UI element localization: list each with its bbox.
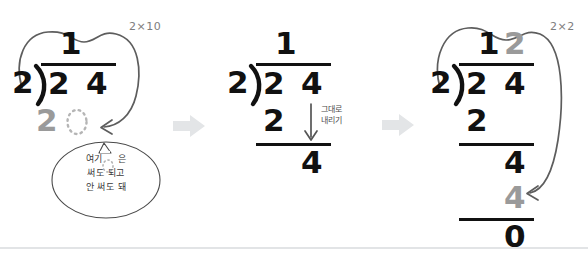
bubble-line-1-pre: 여기	[86, 154, 102, 164]
bubble-line-1: 여기 은	[52, 153, 160, 167]
bubble-line-1-post: 은	[118, 154, 126, 164]
step-2-dividend-tens: 2	[263, 68, 285, 99]
step-1-hint-bubble-text: 여기 은 써도 되고 안 써도 돼	[52, 153, 160, 195]
step-3-dividend-ones: 4	[504, 68, 526, 99]
right-arrow-icon	[381, 112, 415, 138]
step-2-partial-product: 2	[263, 105, 285, 136]
step-3-partial-product: 2	[466, 105, 488, 136]
step-1-mult-label: 2×10	[129, 20, 161, 33]
step-2-note-line-2: 내리기	[321, 116, 342, 127]
step-3-quotient-tens: 1	[478, 28, 500, 59]
step-2-bring-down-arrow	[215, 0, 385, 255]
step-1-divisor: 2	[12, 67, 34, 98]
step-3-division-bracket	[418, 0, 588, 255]
step-1-dividend-ones: 4	[86, 68, 108, 99]
step-3-mult-label: 2×2	[550, 20, 575, 33]
step-2-divisor: 2	[227, 67, 249, 98]
step-2-dividend-ones: 4	[301, 68, 323, 99]
bottom-divider	[0, 247, 588, 249]
division-step-2: 2 1 2 4 2 4 그대로 내리기	[215, 0, 385, 255]
step-2-brought-down-digit: 4	[301, 147, 323, 178]
step-1-dividend-tens: 2	[48, 68, 70, 99]
step-2-note-line-1: 그대로	[321, 105, 342, 116]
division-step-1: 2 1 2 4 2 2×10 여기 은 써도 되고 안 써도 돼	[0, 0, 170, 255]
step-3-quotient-ones: 2	[504, 28, 526, 59]
division-step-3: 2 1 2 2 4 2 4 4 0 2×2	[418, 0, 588, 255]
step-3-annotation-layer	[418, 0, 588, 255]
step-1-quotient-tens: 1	[60, 28, 82, 59]
step-2-bring-down-note: 그대로 내리기	[321, 105, 342, 127]
step-1-partial-product: 2	[36, 105, 58, 136]
step-1-hint-bubble: 여기 은 써도 되고 안 써도 돼	[52, 141, 160, 219]
step-2-quotient-tens: 1	[275, 28, 297, 59]
division-figure: 2 1 2 4 2 2×10 여기 은 써도 되고 안 써도 돼 2 1 2	[0, 0, 588, 255]
step-3-dividend-tens: 2	[466, 68, 488, 99]
bubble-line-3: 안 써도 돼	[52, 181, 160, 195]
step-3-second-product: 4	[504, 182, 526, 213]
step-3-divisor: 2	[430, 67, 452, 98]
step-2-division-bracket	[215, 0, 385, 255]
right-arrow-icon	[172, 113, 206, 139]
step-3-brought-down-digit: 4	[504, 147, 526, 178]
bubble-line-2: 써도 되고	[52, 167, 160, 181]
